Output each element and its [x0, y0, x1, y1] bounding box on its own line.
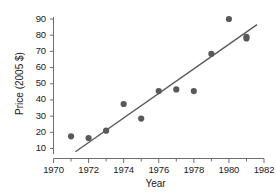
data-point: [226, 16, 232, 22]
x-axis-tick-label: 1972: [72, 165, 106, 175]
y-axis-ticks: [50, 19, 54, 149]
y-axis-tick-label: 70: [24, 46, 46, 56]
y-axis-tick-label: 90: [24, 14, 46, 24]
data-point: [85, 135, 91, 141]
trendline-segment: [75, 25, 257, 152]
data-point: [121, 101, 127, 107]
data-point: [191, 88, 197, 94]
data-point: [138, 115, 144, 121]
data-point: [243, 35, 249, 41]
y-axis-tick-label: 80: [24, 30, 46, 40]
x-axis-tick-label: 1978: [177, 165, 211, 175]
y-axis-title: Price (2005 $): [14, 36, 25, 132]
trendline: [75, 25, 257, 152]
y-axis-tick-label: 60: [24, 62, 46, 72]
data-point: [156, 88, 162, 94]
data-point: [173, 86, 179, 92]
data-point: [208, 51, 214, 57]
y-axis-tick-label: 30: [24, 111, 46, 121]
data-point: [68, 133, 74, 139]
x-axis-ticks: [54, 159, 265, 164]
y-axis-tick-label: 20: [24, 127, 46, 137]
scatter-chart: 102030405060708090 197019721974197619781…: [0, 0, 276, 196]
data-point: [103, 128, 109, 134]
x-axis-tick-label: 1974: [107, 165, 141, 175]
x-axis-tick-label: 1982: [247, 165, 276, 175]
x-axis-title: Year: [53, 178, 258, 189]
y-axis-tick-label: 40: [24, 94, 46, 104]
y-axis-tick-label: 10: [24, 143, 46, 153]
data-points: [68, 16, 250, 141]
x-axis-tick-label: 1980: [212, 165, 246, 175]
y-axis-tick-label: 50: [24, 78, 46, 88]
x-axis-tick-label: 1970: [37, 165, 71, 175]
x-axis-tick-label: 1976: [142, 165, 176, 175]
